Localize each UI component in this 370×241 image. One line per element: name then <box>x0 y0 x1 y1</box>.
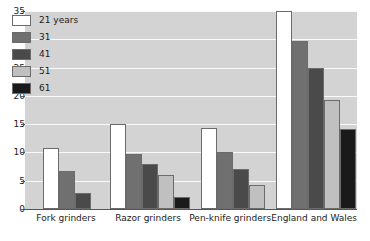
legend-label: 61 <box>39 84 50 93</box>
x-axis-tick-label: Razor grinders <box>107 212 189 232</box>
x-axis-tick-label: Fork grinders <box>25 212 107 232</box>
bar <box>276 11 292 209</box>
legend-item: 51 <box>12 63 122 80</box>
bar <box>59 171 75 209</box>
legend-item: 61 <box>12 80 122 97</box>
legend-swatch <box>12 66 31 77</box>
bar <box>43 148 59 209</box>
legend-item: 31 <box>12 29 122 46</box>
legend-item: 41 <box>12 46 122 63</box>
x-axis-tick-label: England and Wales <box>271 212 357 232</box>
bar <box>217 152 233 209</box>
bar <box>110 124 126 209</box>
bar <box>75 193 91 209</box>
legend: 21 years31415161 <box>12 12 122 97</box>
x-axis-line <box>25 209 357 210</box>
legend-label: 21 years <box>39 16 78 25</box>
bar <box>174 197 190 209</box>
bar-chart: 05101520253035 Fork grindersRazor grinde… <box>0 0 370 241</box>
bar <box>249 185 265 209</box>
x-axis-labels: Fork grindersRazor grindersPen-knife gri… <box>25 212 357 232</box>
bar <box>142 164 158 209</box>
bar-group <box>274 11 357 209</box>
bar <box>340 129 356 209</box>
bar <box>324 100 340 209</box>
bar <box>201 128 217 209</box>
bar <box>126 154 142 209</box>
legend-label: 31 <box>39 33 50 42</box>
bar <box>233 169 249 209</box>
bar-group <box>191 11 274 209</box>
legend-swatch <box>12 32 31 43</box>
legend-swatch <box>12 49 31 60</box>
legend-label: 41 <box>39 50 50 59</box>
bar <box>158 175 174 209</box>
x-axis-tick-label: Pen-knife grinders <box>189 212 271 232</box>
legend-item: 21 years <box>12 12 122 29</box>
legend-label: 51 <box>39 67 50 76</box>
legend-swatch <box>12 83 31 94</box>
legend-swatch <box>12 15 31 26</box>
bar <box>308 68 324 209</box>
bar <box>292 41 308 209</box>
